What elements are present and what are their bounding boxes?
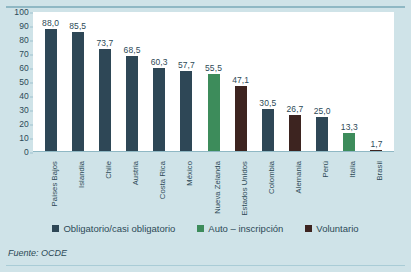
bar — [316, 117, 328, 152]
bar-slot: 73,7 — [91, 12, 118, 152]
bar-value-label: 88,0 — [42, 19, 59, 28]
bar — [153, 68, 165, 152]
legend-swatch-icon — [52, 225, 59, 232]
legend-swatch-icon — [197, 225, 204, 232]
bar-slot: 26,7 — [281, 12, 308, 152]
bar-value-label: 47,1 — [232, 76, 249, 85]
x-axis-label-slot: Chile — [91, 160, 118, 218]
bar-value-label: 57,7 — [178, 61, 195, 70]
x-axis-label-slot: Italia — [336, 160, 363, 218]
bar-value-label: 73,7 — [96, 39, 113, 48]
x-axis-label-slot: Estados Unidos — [227, 160, 254, 218]
bar-slot: 13,3 — [336, 12, 363, 152]
bar — [126, 56, 138, 152]
top-divider — [6, 6, 405, 8]
legend-label: Auto – inscripción — [208, 223, 283, 234]
x-axis-label-slot: Colombia — [254, 160, 281, 218]
y-axis-tick: 70 — [19, 50, 29, 59]
bar-value-label: 25,0 — [314, 107, 331, 116]
bar-value-label: 13,3 — [341, 123, 358, 132]
y-axis-tick: 10 — [19, 134, 29, 143]
y-axis: 0102030405060708090100 — [6, 12, 33, 152]
bottom-divider — [6, 265, 405, 266]
bar-slot: 85,5 — [64, 12, 91, 152]
x-axis-label: Nueva Zelanda — [214, 161, 222, 214]
legend-item-obligatorio[interactable]: Obligatorio/casi obligatorio — [52, 223, 175, 234]
chart-legend: Obligatorio/casi obligatorioAuto – inscr… — [0, 218, 411, 238]
bar-slot: 47,1 — [227, 12, 254, 152]
bar-slot: 30,5 — [254, 12, 281, 152]
legend-label: Obligatorio/casi obligatorio — [63, 223, 175, 234]
x-axis-label: Alemania — [295, 161, 303, 193]
x-axis-label: Islandia — [78, 161, 86, 188]
bar — [180, 71, 192, 152]
bar-slot: 88,0 — [37, 12, 64, 152]
bar-slot: 1,7 — [363, 12, 390, 152]
bar — [72, 32, 84, 152]
bar-value-label: 1,7 — [370, 140, 382, 149]
bar-slot: 25,0 — [309, 12, 336, 152]
bar-value-label: 26,7 — [287, 105, 304, 114]
bar-value-label: 60,3 — [151, 58, 168, 67]
y-axis-tick: 60 — [19, 64, 29, 73]
x-axis-label-slot: Nueva Zelanda — [200, 160, 227, 218]
bar-slot: 60,3 — [146, 12, 173, 152]
x-axis-labels: Países BajosIslandiaChileAustriaCosta Ri… — [6, 160, 405, 218]
x-axis-label: México — [186, 161, 194, 186]
bar-series: 88,085,573,768,560,357,755,547,130,526,7… — [33, 12, 394, 152]
x-axis-label: Austria — [132, 161, 140, 185]
x-axis-label-slot: Brasil — [363, 160, 390, 218]
bar — [45, 29, 57, 152]
x-axis-label-slot: Islandia — [64, 160, 91, 218]
y-axis-tick: 80 — [19, 36, 29, 45]
bar-value-label: 85,5 — [69, 22, 86, 31]
bar-value-label: 68,5 — [124, 46, 141, 55]
legend-item-voluntario[interactable]: Voluntario — [305, 223, 358, 234]
x-axis-line — [33, 151, 394, 152]
bar — [235, 86, 247, 152]
legend-item-auto[interactable]: Auto – inscripción — [197, 223, 283, 234]
y-axis-tick: 50 — [19, 78, 29, 87]
bar — [208, 74, 220, 152]
x-axis-labels-inner: Países BajosIslandiaChileAustriaCosta Ri… — [33, 160, 394, 218]
bar — [343, 133, 355, 152]
x-axis-label: Perú — [322, 161, 330, 177]
legend-label: Voluntario — [316, 223, 358, 234]
bar-slot: 68,5 — [118, 12, 145, 152]
x-axis-label: Italia — [349, 161, 357, 178]
x-axis-label: Chile — [105, 161, 113, 179]
bar — [262, 109, 274, 152]
y-axis-tick: 40 — [19, 92, 29, 101]
source-note: Fuente: OCDE — [8, 248, 67, 259]
y-axis-tick: 0 — [24, 148, 29, 157]
x-axis-label: Estados Unidos — [241, 161, 249, 216]
y-axis-tick: 20 — [19, 120, 29, 129]
bar-slot: 55,5 — [200, 12, 227, 152]
x-axis-label-slot: Perú — [309, 160, 336, 218]
bar-slot: 57,7 — [173, 12, 200, 152]
y-axis-tick: 30 — [19, 106, 29, 115]
chart-figure: 0102030405060708090100 88,085,573,768,56… — [0, 0, 411, 272]
x-axis-label-slot: México — [173, 160, 200, 218]
x-axis-label-slot: Costa Rica — [146, 160, 173, 218]
x-axis-label: Países Bajos — [51, 161, 59, 207]
y-axis-tick: 90 — [19, 22, 29, 31]
chart-plot-area: 0102030405060708090100 88,085,573,768,56… — [6, 10, 405, 162]
x-axis-label-slot: Austria — [118, 160, 145, 218]
bar — [289, 115, 301, 152]
legend-swatch-icon — [305, 225, 312, 232]
x-axis-label-slot: Países Bajos — [37, 160, 64, 218]
bar-value-label: 55,5 — [205, 64, 222, 73]
bar — [99, 49, 111, 152]
y-axis-tick: 100 — [14, 8, 29, 17]
x-axis-label: Costa Rica — [159, 161, 167, 199]
bar-value-label: 30,5 — [259, 99, 276, 108]
x-axis-label-slot: Alemania — [281, 160, 308, 218]
x-axis-label: Colombia — [268, 161, 276, 194]
x-axis-label: Brasil — [376, 161, 384, 181]
